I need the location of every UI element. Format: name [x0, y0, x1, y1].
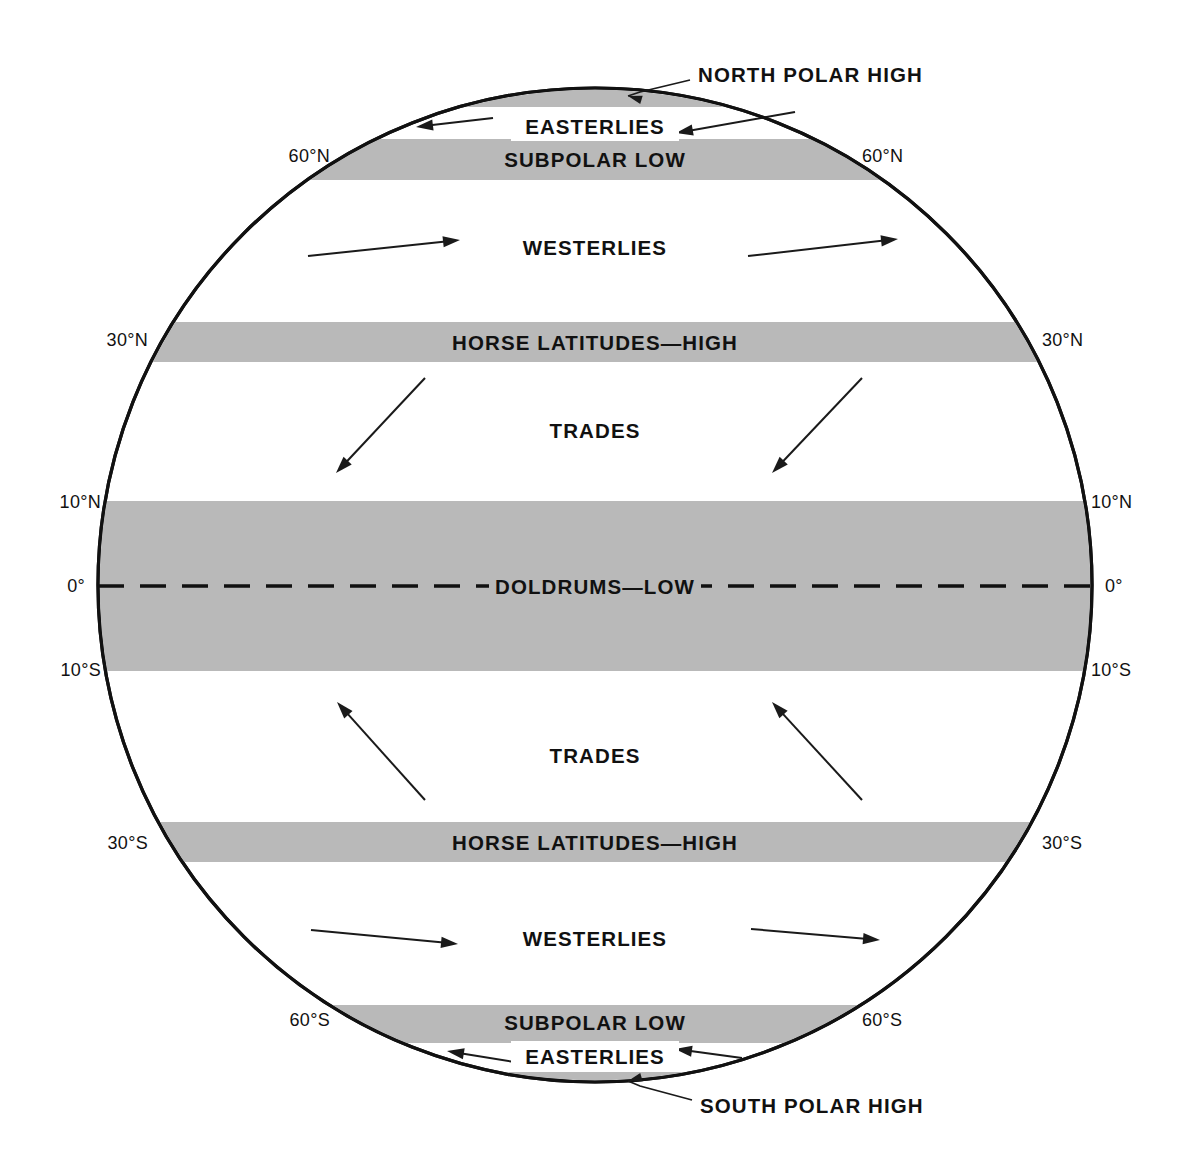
band-label-north-horse-latitudes: HORSE LATITUDES—HIGH	[452, 331, 738, 354]
latitude-label-30degS-right: 30°S	[1042, 833, 1082, 853]
callout-south-polar-high: SOUTH POLAR HIGH	[628, 1073, 924, 1117]
band-label-northern-easterlies: EASTERLIES	[525, 115, 665, 138]
band-label-southern-westerlies: WESTERLIES	[523, 927, 667, 950]
band-label-northern-westerlies: WESTERLIES	[523, 236, 667, 259]
callout-label-north-polar-high: NORTH POLAR HIGH	[698, 63, 923, 86]
band-label-doldrums-low: DOLDRUMS—LOW	[495, 575, 695, 598]
latitude-label-0deg-right: 0°	[1105, 576, 1123, 596]
band-label-northern-trades: TRADES	[550, 419, 641, 442]
pressure-band-north-polar-high-band	[88, 88, 1102, 107]
latitude-label-60degS-right: 60°S	[862, 1010, 902, 1030]
latitude-label-60degN-left: 60°N	[289, 146, 330, 166]
latitude-label-10degN-right: 10°N	[1091, 492, 1132, 512]
latitude-label-10degS-left: 10°S	[61, 660, 101, 680]
global-wind-belts-figure: EASTERLIESSUBPOLAR LOWWESTERLIESHORSE LA…	[0, 0, 1180, 1157]
latitude-label-60degN-right: 60°N	[862, 146, 903, 166]
latitude-label-10degS-right: 10°S	[1091, 660, 1131, 680]
band-label-southern-easterlies: EASTERLIES	[525, 1045, 665, 1068]
wind-belts-diagram: EASTERLIESSUBPOLAR LOWWESTERLIESHORSE LA…	[0, 0, 1180, 1157]
latitude-label-10degN-left: 10°N	[60, 492, 101, 512]
latitude-label-30degS-left: 30°S	[108, 833, 148, 853]
band-label-southern-trades: TRADES	[550, 744, 641, 767]
latitude-label-60degS-left: 60°S	[290, 1010, 330, 1030]
latitude-label-0deg-left: 0°	[67, 576, 85, 596]
band-label-south-subpolar-low: SUBPOLAR LOW	[504, 1011, 686, 1034]
latitude-label-30degN-left: 30°N	[107, 330, 148, 350]
callout-label-south-polar-high: SOUTH POLAR HIGH	[700, 1094, 924, 1117]
callout-leader-line	[628, 1081, 692, 1100]
band-label-north-subpolar-low: SUBPOLAR LOW	[504, 148, 686, 171]
band-label-south-horse-latitudes: HORSE LATITUDES—HIGH	[452, 831, 738, 854]
latitude-label-30degN-right: 30°N	[1042, 330, 1083, 350]
